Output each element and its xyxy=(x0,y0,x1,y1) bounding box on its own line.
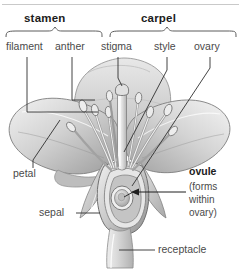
carpel-brace-icon xyxy=(110,27,236,37)
callout-title-ovule: ovule xyxy=(189,166,216,177)
group-label-stamen: stamen xyxy=(24,12,65,24)
flower-diagram: stamen carpel filament anther stigma sty… xyxy=(0,0,241,272)
part-label-receptacle: receptacle xyxy=(158,244,206,255)
part-label-stigma: stigma xyxy=(101,41,132,52)
part-label-petal: petal xyxy=(13,168,36,179)
callout-line-1: (forms xyxy=(189,181,217,193)
part-label-style: style xyxy=(154,41,176,52)
callout-line-2: within xyxy=(189,194,215,206)
ovule-nucleus xyxy=(118,193,125,201)
callout-line-3: ovary) xyxy=(189,207,217,219)
style xyxy=(118,92,127,170)
group-label-carpel: carpel xyxy=(141,12,176,24)
flower-body xyxy=(9,58,230,268)
part-label-anther: anther xyxy=(55,41,85,52)
stamen-brace-icon xyxy=(6,27,102,37)
part-label-filament: filament xyxy=(6,41,43,52)
part-label-ovary: ovary xyxy=(194,41,220,52)
part-label-sepal: sepal xyxy=(39,207,64,218)
